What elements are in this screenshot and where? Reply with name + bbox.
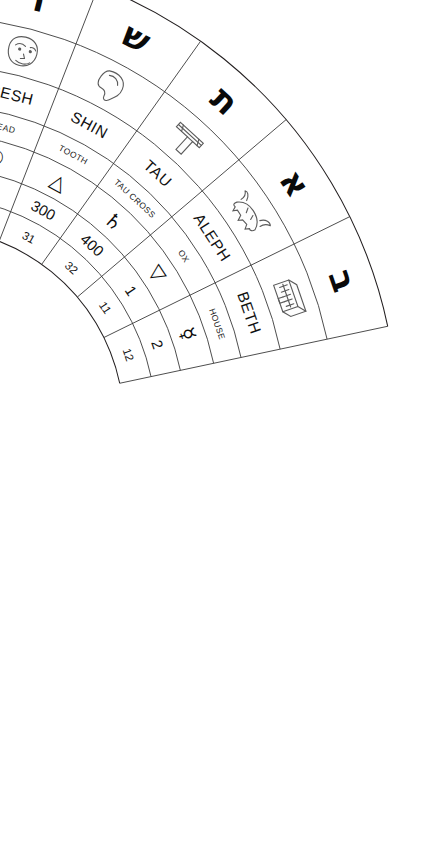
hebrew-alphabet-wheel: נNUNFISH♏5024סSAMECHSTAFF♐6025עAYINEYE♑7… xyxy=(0,0,424,847)
canvas-background xyxy=(0,0,424,847)
